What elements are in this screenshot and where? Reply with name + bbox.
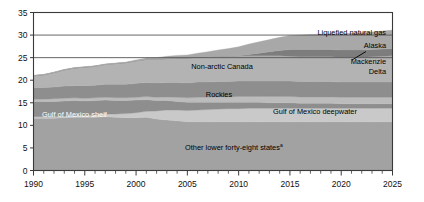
band-label-gulf-of-mexico-shelf: Gulf of Mexico shelf — [42, 110, 108, 119]
stacked-area-chart: 05101520253035 1990199520002005201020152… — [0, 0, 424, 202]
band-label-rockies: Rockies — [206, 90, 233, 99]
band-label-other-lower-forty-eight-states: Other lower forty-eight statesa — [185, 142, 283, 152]
x-tick-label-2010: 2010 — [229, 179, 248, 189]
y-tick-label-35: 35 — [18, 8, 28, 18]
y-tick-label-15: 15 — [18, 98, 28, 108]
x-tick-label-1990: 1990 — [24, 179, 43, 189]
band-label-mackenzie-delta: Delta — [369, 67, 387, 76]
y-tick-label-30: 30 — [18, 30, 28, 40]
x-tick-label-2025: 2025 — [383, 179, 402, 189]
band-label-liquefied-natural-gas: Liquefied natural gas — [317, 28, 386, 37]
chart-canvas: 05101520253035 1990199520002005201020152… — [0, 0, 424, 202]
y-tick-label-20: 20 — [18, 75, 28, 85]
band-label-mackenzie: Mackenzie — [351, 57, 386, 66]
y-tick-label-0: 0 — [23, 166, 28, 176]
x-tick-label-1995: 1995 — [75, 179, 94, 189]
x-tick-label-2015: 2015 — [280, 179, 299, 189]
x-tick-label-2005: 2005 — [178, 179, 197, 189]
x-tick-label-2020: 2020 — [332, 179, 351, 189]
band-label-alaska: Alaska — [364, 41, 387, 50]
footnote-marker: a — [280, 142, 283, 148]
y-tick-label-5: 5 — [23, 143, 28, 153]
y-tick-label-10: 10 — [18, 120, 28, 130]
y-tick-label-25: 25 — [18, 53, 28, 63]
band-label-non-arctic-canada: Non-arctic Canada — [191, 62, 254, 71]
x-tick-label-2000: 2000 — [127, 179, 146, 189]
band-label-gulf-of-mexico-deepwater: Gulf of Mexico deepwater — [273, 107, 357, 116]
